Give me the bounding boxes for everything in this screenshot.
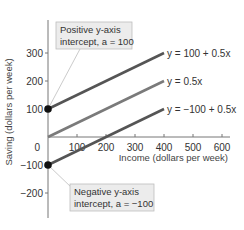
saving-income-chart: −200−100100200300 100200300400500600 0 S… bbox=[0, 0, 244, 230]
origin-label: 0 bbox=[34, 142, 40, 153]
y-axis-title: Saving (dollars per week) bbox=[3, 58, 14, 165]
callout-line-1: Positive y-axis bbox=[60, 24, 121, 35]
equation-labels: y = 100 + 0.5xy = 0.5xy = −100 + 0.5x bbox=[167, 48, 236, 115]
equation-label: y = −100 + 0.5x bbox=[167, 104, 236, 115]
callout-line-1: Negative y-axis bbox=[74, 186, 139, 197]
y-tick-label: 200 bbox=[26, 76, 43, 87]
equation-label: y = 0.5x bbox=[167, 76, 202, 87]
leader-line-negative bbox=[48, 165, 72, 188]
callout-line-2: intercept, a = −100 bbox=[74, 198, 153, 209]
annotation-leaders bbox=[48, 49, 80, 188]
callout-line-2: intercept, a = 100 bbox=[60, 36, 134, 47]
series-line-0 bbox=[48, 53, 164, 109]
equation-label: y = 100 + 0.5x bbox=[167, 48, 230, 59]
x-tick-label: 200 bbox=[98, 142, 115, 153]
x-axis-title: Income (dollars per week) bbox=[119, 152, 228, 163]
y-axis-ticks: −200−100100200300 bbox=[20, 48, 48, 199]
y-tick-label: 100 bbox=[26, 104, 43, 115]
series-line-1 bbox=[48, 81, 164, 137]
callout-negative-intercept: Negative y-axis intercept, a = −100 bbox=[70, 184, 154, 211]
y-tick-label: 300 bbox=[26, 48, 43, 59]
y-tick-label: −100 bbox=[20, 160, 43, 171]
intercept-marker bbox=[44, 105, 52, 113]
y-tick-label: −200 bbox=[20, 188, 43, 199]
intercept-marker bbox=[44, 161, 52, 169]
callout-positive-intercept: Positive y-axis intercept, a = 100 bbox=[56, 22, 134, 49]
